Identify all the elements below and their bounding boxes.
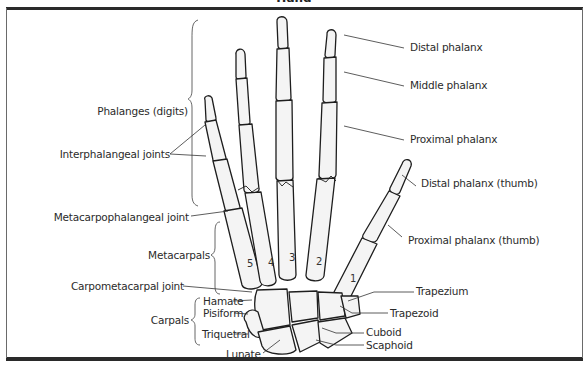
label-scaphoid: Scaphoid bbox=[366, 339, 413, 351]
label-pisiform: Pisiform bbox=[203, 307, 243, 319]
middle-finger-bones bbox=[276, 17, 296, 281]
label-distal-phalanx-thumb: Distal phalanx (thumb) bbox=[421, 177, 538, 189]
label-trapezoid: Trapezoid bbox=[390, 307, 438, 319]
carpal-bones bbox=[244, 289, 360, 354]
metacarpal-number-5: 5 bbox=[247, 258, 253, 269]
metacarpal-number-1: 1 bbox=[350, 273, 356, 284]
label-middle-phalanx: Middle phalanx bbox=[410, 79, 487, 91]
label-carpometacarpal-joint: Carpometacarpal joint bbox=[71, 280, 184, 292]
label-metacarpophalangeal-joint: Metacarpophalangeal joint bbox=[54, 211, 189, 223]
metacarpal-number-3: 3 bbox=[289, 252, 295, 263]
index-finger-bones bbox=[306, 30, 337, 281]
phalanges-bracket bbox=[188, 20, 198, 206]
label-triquetral: Triquetral bbox=[202, 328, 250, 340]
label-proximal-phalanx-thumb: Proximal phalanx (thumb) bbox=[408, 234, 539, 246]
label-interphalangeal-joints: Interphalangeal joints bbox=[60, 148, 170, 160]
label-lunate: Lunate bbox=[226, 348, 261, 360]
label-carpals: Carpals bbox=[151, 314, 189, 326]
label-hamate: Hamate bbox=[203, 295, 243, 307]
thumb-bones bbox=[332, 160, 411, 304]
label-metacarpals: Metacarpals bbox=[148, 249, 210, 261]
metacarpal-number-4: 4 bbox=[268, 257, 274, 268]
label-cuboid: Cuboid bbox=[366, 326, 401, 338]
carpals-bracket bbox=[191, 298, 200, 345]
label-phalanges-digits: Phalanges (digits) bbox=[97, 105, 188, 117]
metacarpals-bracket bbox=[211, 222, 220, 294]
label-proximal-phalanx: Proximal phalanx bbox=[410, 133, 497, 145]
metacarpal-number-2: 2 bbox=[316, 256, 322, 267]
label-distal-phalanx: Distal phalanx bbox=[410, 41, 482, 53]
label-trapezium: Trapezium bbox=[416, 285, 468, 297]
